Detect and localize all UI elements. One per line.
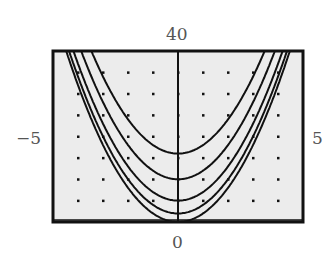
- grid-dot: [277, 136, 280, 139]
- grid-dot: [227, 93, 230, 96]
- grid-dot: [202, 71, 205, 74]
- grid-dot: [152, 178, 155, 181]
- grid-dot: [127, 71, 130, 74]
- plot-area: [0, 0, 334, 257]
- grid-dot: [102, 114, 105, 117]
- grid-dot: [127, 114, 130, 117]
- grid-dot: [277, 157, 280, 160]
- grid-dot: [77, 93, 80, 96]
- grid-dot: [77, 157, 80, 160]
- grid-dot: [77, 114, 80, 117]
- grid-dot: [102, 93, 105, 96]
- grid-dot: [252, 157, 255, 160]
- grid-dot: [202, 114, 205, 117]
- grid-dot: [252, 178, 255, 181]
- grid-dot: [152, 71, 155, 74]
- grid-dot: [77, 200, 80, 203]
- grid-dot: [227, 71, 230, 74]
- grid-dot: [277, 114, 280, 117]
- grid-dot: [277, 200, 280, 203]
- grid-dot: [152, 93, 155, 96]
- grid-dot: [77, 136, 80, 139]
- grid-dot: [227, 136, 230, 139]
- grid-dot: [252, 200, 255, 203]
- grid-dot: [102, 157, 105, 160]
- grid-dot: [77, 178, 80, 181]
- grid-dot: [227, 200, 230, 203]
- grid-dot: [277, 178, 280, 181]
- grid-dot: [227, 157, 230, 160]
- grid-dot: [202, 93, 205, 96]
- grid-dot: [202, 157, 205, 160]
- grid-dot: [127, 136, 130, 139]
- grid-dot: [202, 136, 205, 139]
- grid-dot: [202, 178, 205, 181]
- grid-dot: [152, 136, 155, 139]
- grid-dot: [127, 200, 130, 203]
- grid-dot: [152, 114, 155, 117]
- grid-dot: [127, 93, 130, 96]
- grid-dot: [152, 200, 155, 203]
- grid-dot: [252, 93, 255, 96]
- grid-dot: [102, 200, 105, 203]
- grid-dot: [102, 178, 105, 181]
- grid-dot: [127, 157, 130, 160]
- grid-dot: [277, 93, 280, 96]
- grid-dot: [252, 114, 255, 117]
- grid-dot: [152, 157, 155, 160]
- grid-dot: [202, 200, 205, 203]
